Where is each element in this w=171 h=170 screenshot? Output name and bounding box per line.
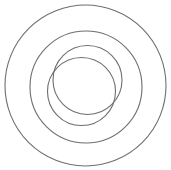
inner-circle-lower (48, 58, 116, 126)
diagram-canvas (0, 0, 171, 170)
middle-circle (30, 31, 142, 143)
concentric-circles-diagram (0, 0, 171, 170)
inner-circle-upper (53, 46, 122, 115)
